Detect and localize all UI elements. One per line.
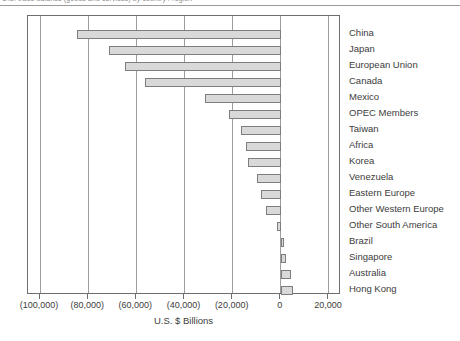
category-label: European Union [349, 60, 418, 70]
bar [125, 62, 281, 71]
category-label: Singapore [349, 252, 392, 262]
x-axis-tick [87, 294, 88, 299]
bar [229, 110, 281, 119]
category-label: Venezuela [349, 172, 393, 182]
plot-frame [27, 15, 340, 294]
gridline [40, 16, 41, 293]
bar [246, 142, 281, 151]
x-axis-tick [135, 294, 136, 299]
bar [248, 158, 281, 167]
x-axis-tick-label: 20,000 [298, 300, 358, 310]
category-label: China [349, 28, 374, 38]
category-label: Canada [349, 76, 382, 86]
gridline [88, 16, 89, 293]
category-label: Korea [349, 156, 374, 166]
plot-area [28, 16, 339, 293]
category-label: Brazil [349, 236, 373, 246]
bar [281, 270, 291, 279]
bar [241, 126, 281, 135]
category-label: Taiwan [349, 124, 379, 134]
category-label: Japan [349, 44, 375, 54]
gridline [184, 16, 185, 293]
bar [109, 46, 281, 55]
gridline [232, 16, 233, 293]
bar [77, 30, 281, 39]
gridline [280, 16, 281, 293]
x-axis-tick [327, 294, 328, 299]
figure-caption-text: U.S. trade balance (goods and services) … [2, 0, 192, 2]
x-axis-tick [231, 294, 232, 299]
category-label: Africa [349, 140, 373, 150]
bar [257, 174, 281, 183]
x-axis-tick-row [27, 294, 340, 299]
bar [281, 254, 287, 263]
category-label: Mexico [349, 92, 379, 102]
category-label: Hong Kong [349, 284, 397, 294]
x-axis-tick [279, 294, 280, 299]
x-axis-title: U.S. $ Billions [27, 315, 340, 326]
category-label: Other Western Europe [349, 204, 444, 214]
bar-chart-figure: U.S. $ Billions ChinaJapanEuropean Union… [0, 6, 460, 341]
gridline [328, 16, 329, 293]
bar [281, 238, 285, 247]
category-label: Australia [349, 268, 386, 278]
x-axis-tick [183, 294, 184, 299]
x-axis-tick [39, 294, 40, 299]
category-label: Eastern Europe [349, 188, 415, 198]
bar [266, 206, 281, 215]
category-label: OPEC Members [349, 108, 418, 118]
bar [261, 190, 281, 199]
bar [145, 78, 281, 87]
category-label: Other South America [349, 220, 437, 230]
bar [205, 94, 281, 103]
bar [277, 222, 281, 231]
category-label-list: ChinaJapanEuropean UnionCanadaMexicoOPEC… [349, 15, 460, 294]
gridline [136, 16, 137, 293]
